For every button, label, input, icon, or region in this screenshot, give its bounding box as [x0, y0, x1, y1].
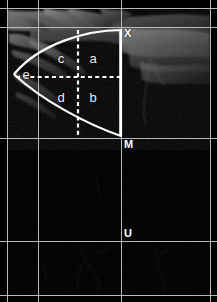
zone-label-b: b	[89, 91, 96, 104]
zone-label-e: e	[22, 68, 29, 81]
zone-label-c: c	[58, 52, 65, 65]
gridline-horizontal-top	[0, 8, 217, 9]
zone-label-a: a	[89, 52, 96, 65]
ultrasound-scan-image	[0, 0, 217, 302]
gridline-vertical-left	[7, 0, 8, 302]
gridline-vertical-right	[210, 0, 211, 302]
gridline-horizontal-upper	[0, 27, 217, 28]
zone-label-d: d	[57, 91, 64, 104]
gridline-horizontal-middle	[0, 138, 217, 139]
landmark-label-u: U	[124, 228, 132, 239]
gridline-vertical-center	[121, 0, 122, 302]
gridline-horizontal-bottom	[0, 295, 217, 296]
annotated-scan-figure: a b c d e X M U Annotated sagittal scan …	[0, 0, 217, 302]
gridline-horizontal-lower	[0, 241, 217, 242]
landmark-label-x: X	[124, 28, 131, 39]
landmark-label-m: M	[124, 139, 133, 150]
gridline-vertical-inner	[38, 0, 39, 302]
